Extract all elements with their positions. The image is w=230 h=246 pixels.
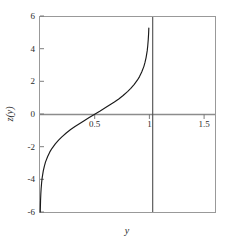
- xtick-label-1: 1: [142, 120, 156, 129]
- ytick-label-6: 6: [20, 12, 35, 21]
- chart-figure: 6 4 2 0 -2 -4 -6 0.5 1 1.5 z(y) y: [0, 0, 230, 246]
- xtick-label-1-5: 1.5: [192, 120, 216, 129]
- x-axis-title: y: [120, 226, 134, 236]
- ytick-label-neg6: -6: [16, 208, 35, 217]
- ytick-label-neg4: -4: [16, 175, 35, 184]
- y-axis-title: z(y): [5, 95, 15, 133]
- ytick-label-2: 2: [20, 77, 35, 86]
- xtick-label-0-5: 0.5: [83, 120, 107, 129]
- ytick-label-0: 0: [20, 110, 35, 119]
- ytick-label-neg2: -2: [16, 143, 35, 152]
- ytick-label-4: 4: [20, 45, 35, 54]
